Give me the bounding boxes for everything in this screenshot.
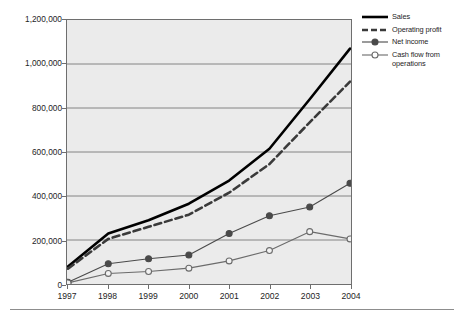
y-tick-label: 1,000,000 bbox=[0, 59, 62, 68]
x-tick-mark bbox=[270, 285, 271, 289]
data-point-cash-flow-from-operations bbox=[226, 258, 232, 264]
line-open-marker-icon bbox=[362, 50, 388, 60]
line-solid-thick-icon bbox=[362, 12, 388, 22]
legend-item[interactable]: Operating profit bbox=[362, 25, 458, 35]
y-tick-label: 600,000 bbox=[0, 148, 62, 157]
x-tick-mark bbox=[351, 285, 352, 289]
data-point-net-income bbox=[186, 252, 192, 258]
legend-item-label: Cash flow from operations bbox=[392, 50, 458, 69]
data-point-net-income bbox=[347, 180, 351, 186]
y-tick-label: 1,200,000 bbox=[0, 15, 62, 24]
x-tick-label: 2004 bbox=[341, 291, 360, 301]
x-tick-label: 2001 bbox=[220, 291, 239, 301]
legend-item-label: Net income bbox=[392, 37, 428, 47]
y-tick-label: 800,000 bbox=[0, 103, 62, 112]
data-point-net-income bbox=[105, 261, 111, 267]
data-point-cash-flow-from-operations bbox=[266, 248, 272, 254]
data-point-cash-flow-from-operations bbox=[146, 268, 152, 274]
x-tick-label: 1998 bbox=[98, 291, 117, 301]
data-point-cash-flow-from-operations bbox=[67, 280, 71, 284]
y-tick-label: 200,000 bbox=[0, 236, 62, 245]
data-point-cash-flow-from-operations bbox=[347, 236, 351, 242]
footer-divider bbox=[10, 309, 454, 310]
plot-canvas bbox=[67, 20, 351, 284]
chart-legend: SalesOperating profitNet incomeCash flow… bbox=[362, 12, 458, 71]
chart-figure: 0200,000400,000600,000800,0001,000,0001,… bbox=[0, 0, 461, 319]
y-tick-mark bbox=[62, 285, 66, 286]
legend-item[interactable]: Sales bbox=[362, 12, 458, 22]
x-tick-label: 1997 bbox=[57, 291, 76, 301]
x-tick-label: 2003 bbox=[301, 291, 320, 301]
x-tick-label: 2002 bbox=[260, 291, 279, 301]
data-point-cash-flow-from-operations bbox=[186, 265, 192, 271]
data-point-cash-flow-from-operations bbox=[307, 229, 313, 235]
legend-item-label: Operating profit bbox=[392, 25, 441, 35]
x-tick-mark bbox=[148, 285, 149, 289]
y-tick-label: 400,000 bbox=[0, 192, 62, 201]
data-point-net-income bbox=[226, 230, 232, 236]
x-tick-label: 1999 bbox=[139, 291, 158, 301]
x-tick-mark bbox=[310, 285, 311, 289]
series-line-operating-profit bbox=[68, 82, 350, 269]
legend-item-label: Sales bbox=[392, 12, 410, 22]
data-point-cash-flow-from-operations bbox=[105, 270, 111, 276]
line-dashed-thick-icon bbox=[362, 25, 388, 35]
x-tick-mark bbox=[108, 285, 109, 289]
x-tick-mark bbox=[229, 285, 230, 289]
data-point-net-income bbox=[307, 204, 313, 210]
legend-item[interactable]: Net income bbox=[362, 37, 458, 47]
data-point-net-income bbox=[146, 256, 152, 262]
x-tick-mark bbox=[189, 285, 190, 289]
legend-item[interactable]: Cash flow from operations bbox=[362, 50, 458, 69]
data-point-net-income bbox=[266, 213, 272, 219]
x-tick-mark bbox=[67, 285, 68, 289]
x-tick-label: 2000 bbox=[179, 291, 198, 301]
y-tick-label: 0 bbox=[0, 281, 62, 290]
line-filled-marker-icon bbox=[362, 37, 388, 47]
plot-area bbox=[66, 19, 352, 285]
